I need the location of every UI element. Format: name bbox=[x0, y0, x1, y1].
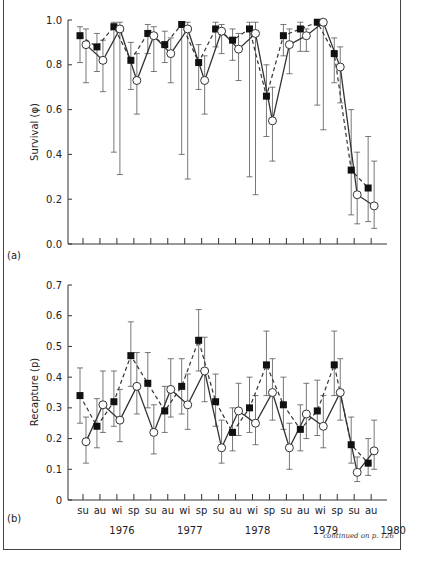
square-marker bbox=[263, 361, 270, 368]
svg-text:0.2: 0.2 bbox=[46, 433, 62, 444]
svg-text:au: au bbox=[229, 505, 241, 516]
circle-marker bbox=[184, 401, 192, 409]
square-marker bbox=[229, 37, 236, 44]
circle-marker bbox=[235, 407, 243, 415]
square-marker bbox=[348, 167, 355, 174]
circle-marker bbox=[319, 18, 327, 26]
svg-text:au: au bbox=[94, 505, 106, 516]
circle-marker bbox=[82, 41, 90, 49]
circle-marker bbox=[133, 382, 141, 390]
svg-text:Recapture (p): Recapture (p) bbox=[29, 358, 40, 426]
svg-text:0.4: 0.4 bbox=[46, 372, 62, 383]
svg-text:wi: wi bbox=[179, 505, 190, 516]
circle-marker bbox=[252, 419, 260, 427]
svg-text:1976: 1976 bbox=[109, 525, 134, 536]
svg-text:0.1: 0.1 bbox=[46, 464, 62, 475]
circle-marker bbox=[150, 428, 158, 436]
panel-b: 00.10.20.30.40.50.60.7Recapture (p)(b)su… bbox=[7, 280, 406, 537]
square-marker bbox=[178, 383, 185, 390]
svg-text:0.3: 0.3 bbox=[46, 402, 62, 413]
square-marker bbox=[365, 185, 372, 192]
svg-text:su: su bbox=[77, 505, 89, 516]
circle-marker bbox=[302, 32, 310, 40]
circle-marker bbox=[167, 50, 175, 58]
square-marker bbox=[110, 398, 117, 405]
circle-marker bbox=[150, 32, 158, 40]
square-marker bbox=[280, 32, 287, 39]
svg-text:su: su bbox=[213, 505, 225, 516]
circle-marker bbox=[336, 63, 344, 71]
square-marker bbox=[331, 361, 338, 368]
svg-text:Survival (φ): Survival (φ) bbox=[29, 103, 40, 161]
circle-marker bbox=[201, 76, 209, 84]
square-marker bbox=[144, 380, 151, 387]
circle-marker bbox=[268, 117, 276, 125]
square-marker bbox=[127, 352, 134, 359]
svg-text:au: au bbox=[162, 505, 174, 516]
square-marker bbox=[77, 392, 84, 399]
circle-marker bbox=[116, 25, 124, 33]
square-marker bbox=[229, 429, 236, 436]
svg-text:(a): (a) bbox=[7, 250, 21, 261]
circle-marker bbox=[302, 410, 310, 418]
series-circles-line bbox=[86, 22, 374, 206]
circle-marker bbox=[201, 367, 209, 375]
circle-marker bbox=[319, 422, 327, 430]
svg-text:wi: wi bbox=[111, 505, 122, 516]
circle-marker bbox=[370, 202, 378, 210]
figure-chart: 0.00.20.40.60.81.0Survival (φ)(a)00.10.2… bbox=[0, 0, 446, 567]
panel-a: 0.00.20.40.60.81.0Survival (φ)(a) bbox=[7, 15, 387, 262]
svg-text:0.8: 0.8 bbox=[46, 59, 62, 70]
square-marker bbox=[365, 460, 372, 467]
svg-text:wi: wi bbox=[247, 505, 258, 516]
square-marker bbox=[280, 401, 287, 408]
circle-marker bbox=[218, 444, 226, 452]
circle-marker bbox=[116, 416, 124, 424]
svg-text:su: su bbox=[281, 505, 293, 516]
square-marker bbox=[93, 423, 100, 430]
circle-marker bbox=[353, 191, 361, 199]
circle-marker bbox=[218, 27, 226, 35]
continued-note: continued on p. 126 bbox=[323, 532, 394, 540]
circle-marker bbox=[99, 401, 107, 409]
square-marker bbox=[93, 43, 100, 50]
series-squares-line bbox=[80, 22, 368, 188]
square-marker bbox=[195, 59, 202, 66]
circle-marker bbox=[167, 385, 175, 393]
square-marker bbox=[161, 407, 168, 414]
circle-marker bbox=[133, 76, 141, 84]
svg-text:1978: 1978 bbox=[245, 525, 270, 536]
svg-text:sp: sp bbox=[196, 505, 208, 516]
square-marker bbox=[263, 93, 270, 100]
svg-text:1977: 1977 bbox=[177, 525, 202, 536]
svg-text:1.0: 1.0 bbox=[46, 15, 62, 26]
svg-text:sp: sp bbox=[264, 505, 276, 516]
circle-marker bbox=[285, 41, 293, 49]
svg-text:0.0: 0.0 bbox=[46, 239, 62, 250]
square-marker bbox=[212, 398, 219, 405]
svg-text:0.2: 0.2 bbox=[46, 194, 62, 205]
square-marker bbox=[297, 25, 304, 32]
circle-marker bbox=[353, 468, 361, 476]
circle-marker bbox=[252, 29, 260, 37]
svg-text:0.5: 0.5 bbox=[46, 341, 62, 352]
square-marker bbox=[77, 32, 84, 39]
square-marker bbox=[195, 337, 202, 344]
svg-text:su: su bbox=[145, 505, 157, 516]
svg-text:au: au bbox=[297, 505, 309, 516]
circle-marker bbox=[235, 45, 243, 53]
svg-text:0: 0 bbox=[56, 495, 62, 506]
circle-marker bbox=[99, 56, 107, 64]
svg-text:0.4: 0.4 bbox=[46, 149, 62, 160]
svg-text:su: su bbox=[348, 505, 360, 516]
svg-text:0.6: 0.6 bbox=[46, 104, 62, 115]
svg-text:sp: sp bbox=[331, 505, 343, 516]
square-marker bbox=[331, 50, 338, 57]
svg-text:0.7: 0.7 bbox=[46, 280, 62, 291]
svg-text:sp: sp bbox=[128, 505, 140, 516]
square-marker bbox=[297, 426, 304, 433]
circle-marker bbox=[285, 444, 293, 452]
square-marker bbox=[246, 404, 253, 411]
square-marker bbox=[127, 57, 134, 64]
square-marker bbox=[314, 407, 321, 414]
